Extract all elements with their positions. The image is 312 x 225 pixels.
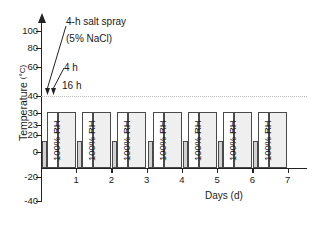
bar-label: 100% RH xyxy=(122,120,132,161)
bar-label: 100% RH xyxy=(87,120,97,161)
bar-100-rh: 100% RH xyxy=(58,112,76,169)
x-axis-title: Days (d) xyxy=(205,190,243,201)
annotation-salt-spray: 4-h salt spray xyxy=(66,16,126,28)
bar-label: 100% RH xyxy=(193,120,203,161)
x-tick-label: 2 xyxy=(101,175,121,185)
x-tick-label: 7 xyxy=(278,175,298,185)
bar-100-rh: 100% RH xyxy=(164,112,182,169)
bar-label: 100% RH xyxy=(228,120,238,161)
bar-100-rh: 100% RH xyxy=(234,112,252,169)
x-tick-mark xyxy=(147,168,148,173)
annotation-nacl: (5% NaCl) xyxy=(66,33,112,45)
x-tick-mark xyxy=(76,168,77,173)
chart-figure: 1008060403023200-20-40 Temperature (°C) … xyxy=(0,0,312,225)
bar-100-rh: 100% RH xyxy=(199,112,217,169)
y-tick-label: -40 xyxy=(0,196,38,206)
x-tick-mark xyxy=(217,168,218,173)
bar-label: 100% RH xyxy=(52,120,62,161)
gridline-40c xyxy=(41,96,307,97)
y-axis-title: Temperature (°C) xyxy=(17,33,29,173)
bar-label: 100% RH xyxy=(263,120,273,161)
x-tick-label: 4 xyxy=(172,175,192,185)
x-tick-label: 6 xyxy=(242,175,262,185)
x-tick-label: 5 xyxy=(207,175,227,185)
y-axis-unit: (°C) xyxy=(18,65,27,79)
bar-100-rh: 100% RH xyxy=(93,112,111,169)
x-tick-label: 3 xyxy=(137,175,157,185)
annotation-16h: 16 h xyxy=(62,80,81,92)
x-tick-mark xyxy=(182,168,183,173)
x-tick-mark xyxy=(288,168,289,173)
annotation-4h: 4 h xyxy=(64,62,78,74)
x-tick-label: 1 xyxy=(66,175,86,185)
bar-100-rh: 100% RH xyxy=(269,112,287,169)
bar-label: 100% RH xyxy=(158,120,168,161)
bar-100-rh: 100% RH xyxy=(128,112,146,169)
y-axis-title-text: Temperature xyxy=(17,82,29,141)
x-tick-mark xyxy=(252,168,253,173)
x-tick-mark xyxy=(111,168,112,173)
